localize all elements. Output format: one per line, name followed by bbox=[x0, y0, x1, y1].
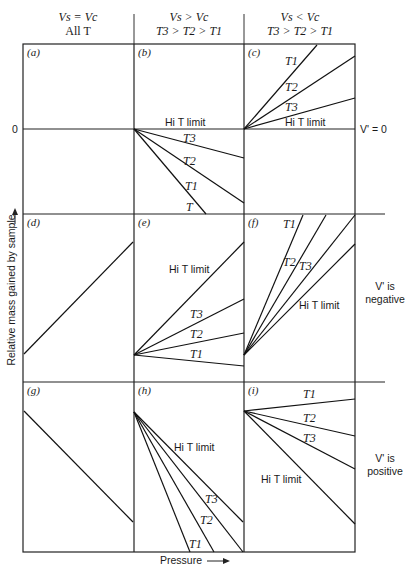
panel-h-T1: T1 bbox=[189, 537, 202, 551]
y-axis-arrow-icon bbox=[12, 208, 18, 215]
y-axis-label: Relative mass gained by sample bbox=[5, 214, 17, 365]
row-note-3-line2: positive bbox=[367, 465, 403, 477]
header-a-line2: All T bbox=[65, 24, 91, 38]
panel-f-T1: T1 bbox=[283, 217, 296, 231]
panel-c-T2: T2 bbox=[285, 80, 298, 94]
panel-f-T3: T3 bbox=[299, 259, 312, 273]
panel-b-T2: T2 bbox=[183, 154, 196, 168]
panel-c-curves: T1 T2 T3 Hi T limit bbox=[244, 45, 355, 129]
column-headers: Vs = Vc All T Vs > Vc T3 > T2 > T1 Vs < … bbox=[59, 10, 333, 38]
row-note-2-line1: V' is bbox=[375, 280, 395, 292]
panel-b-T1: T1 bbox=[185, 179, 198, 193]
row-note-1: V' = 0 bbox=[360, 123, 387, 135]
panel-tag-e: (e) bbox=[138, 216, 151, 229]
row-note-3-line1: V' is bbox=[375, 452, 395, 464]
panel-b-hiT: Hi T limit bbox=[165, 116, 206, 128]
panel-f-hiT: Hi T limit bbox=[299, 299, 340, 311]
panel-h-T3: T3 bbox=[205, 492, 218, 506]
panel-h-curves: Hi T limit T3 T2 T1 bbox=[134, 412, 243, 552]
panel-h-hiT: Hi T limit bbox=[174, 441, 215, 453]
header-c-line2: T3 > T2 > T1 bbox=[267, 24, 333, 38]
header-b-line2: T3 > T2 > T1 bbox=[156, 24, 222, 38]
panel-tag-f: (f) bbox=[248, 216, 259, 229]
header-a-line1: Vs = Vc bbox=[59, 10, 98, 24]
panel-e-T1: T1 bbox=[190, 347, 203, 361]
panel-i-hiT: Hi T limit bbox=[261, 473, 302, 485]
panel-f-T2: T2 bbox=[283, 255, 296, 269]
header-c-line1: Vs < Vc bbox=[281, 10, 320, 24]
panel-i-curves: T1 T2 T3 Hi T limit bbox=[244, 387, 355, 524]
panel-e-T3: T3 bbox=[190, 307, 203, 321]
panel-i-T3: T3 bbox=[303, 431, 316, 445]
panel-i-T1: T1 bbox=[303, 387, 316, 401]
panel-b-T3: T3 bbox=[183, 131, 196, 145]
panel-tag-a: (a) bbox=[27, 46, 40, 59]
y-axis-label-group: Relative mass gained by sample bbox=[5, 214, 17, 365]
panel-tag-b: (b) bbox=[138, 46, 151, 59]
panel-c-hiT: Hi T limit bbox=[285, 116, 326, 128]
panel-b-T: T bbox=[186, 200, 194, 214]
panel-d-curve bbox=[24, 242, 133, 354]
panel-tag-c: (c) bbox=[248, 46, 261, 59]
panel-g-curve bbox=[24, 411, 133, 522]
panel-f-curves: T1 T2 T3 Hi T limit bbox=[244, 215, 355, 355]
panel-e-curves: Hi T limit T3 T2 T1 bbox=[134, 242, 244, 366]
panel-tag-d: (d) bbox=[27, 216, 40, 229]
panel-e-T2: T2 bbox=[190, 327, 203, 341]
panel-tag-h: (h) bbox=[138, 384, 151, 397]
panel-tag-g: (g) bbox=[27, 384, 40, 397]
zero-label: 0 bbox=[12, 123, 18, 135]
panel-c-T3: T3 bbox=[285, 100, 298, 114]
panel-b-curves: Hi T limit T3 T2 T1 T bbox=[134, 116, 244, 214]
x-axis-label: Pressure bbox=[160, 554, 202, 566]
isotherm-diagram: Vs = Vc All T Vs > Vc T3 > T2 > T1 Vs < … bbox=[0, 0, 410, 576]
panel-tag-i: (i) bbox=[248, 384, 259, 397]
panel-h-T2: T2 bbox=[200, 513, 213, 527]
x-axis-arrow-icon bbox=[223, 558, 230, 564]
row-note-2-line2: negative bbox=[365, 293, 405, 305]
panel-c-T1: T1 bbox=[285, 54, 298, 68]
panel-e-hiT: Hi T limit bbox=[169, 263, 210, 275]
panel-i-T2: T2 bbox=[303, 411, 316, 425]
row-notes: V' = 0 V' is negative V' is positive bbox=[360, 123, 405, 477]
header-b-line1: Vs > Vc bbox=[170, 10, 209, 24]
